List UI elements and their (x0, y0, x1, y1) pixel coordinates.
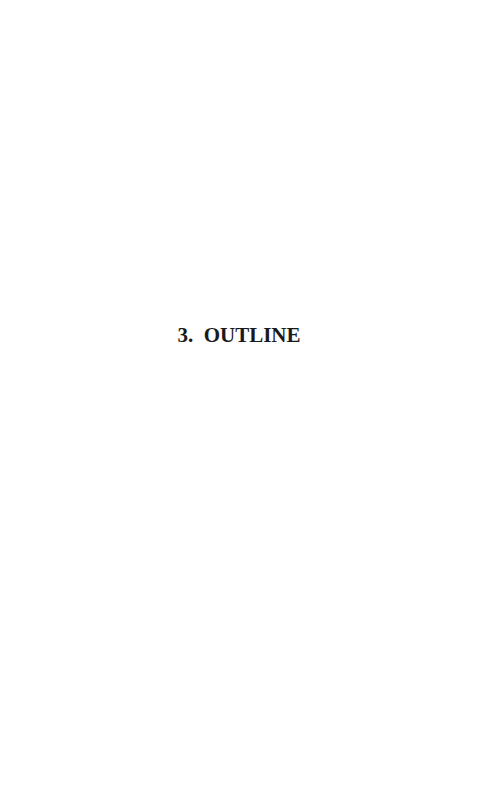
document-page: 3. OUTLINE (0, 0, 478, 789)
section-heading: 3. OUTLINE (0, 323, 478, 347)
